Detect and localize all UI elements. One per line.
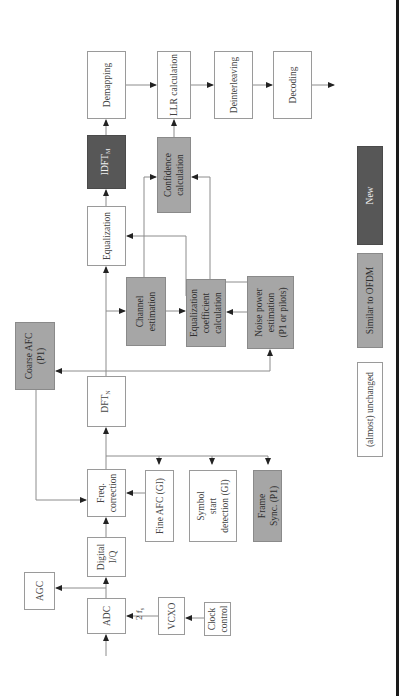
idft-label: IDFTM [99, 149, 114, 175]
dft-sub: N [105, 390, 111, 394]
legend-similar: Similar to OFDM [357, 253, 383, 348]
clock-control-block: Clock control [204, 602, 231, 636]
eq-coeff-block: Equalization coefficient calculation [186, 279, 226, 347]
digital-iq-block: Digital I/Q [87, 537, 126, 577]
vcxo-label: VCXO [166, 603, 178, 630]
fine-afc-label: Fine AFC (GI) [154, 478, 166, 534]
legend-similar-label: Similar to OFDM [364, 267, 376, 335]
deinterleaving-block: Deinterleaving [214, 51, 253, 119]
dft-text: DFT [100, 395, 110, 413]
dft-to-noise-arrow [106, 350, 270, 371]
llr-block: LLR calculation [157, 51, 191, 119]
decoding-block: Decoding [273, 51, 312, 119]
dft-label: DFTN [99, 390, 114, 412]
idft-sub: M [105, 149, 111, 154]
clock-freq-sub: s [139, 608, 145, 610]
vcxo-block: VCXO [158, 597, 185, 635]
adc-block: ADC [87, 598, 126, 634]
frame-sync-block: Frame Sync. (P1) [253, 470, 282, 542]
channel-estimation-block: Channel estimation [126, 277, 166, 346]
symbol-start-block: Symbol start detection (GI) [189, 470, 237, 542]
adc-label: ADC [101, 606, 113, 626]
legend-unchanged: (almost) unchanged [357, 362, 383, 457]
frame-sync-label: Frame Sync. (P1) [256, 486, 280, 526]
deinterleaving-label: Deinterleaving [228, 57, 240, 113]
connector-layer [0, 0, 408, 696]
page-border-rule [396, 0, 399, 696]
demapping-block: Demapping [87, 51, 126, 119]
coarse-afc-block: Coarse AFC (P1) [15, 322, 55, 390]
noise-power-block: Noise power estimation (P1 or pilots) [247, 276, 294, 349]
symbol-start-label: Symbol start detection (GI) [195, 479, 231, 533]
fine-afc-block: Fine AFC (GI) [145, 470, 174, 542]
agc-label: AGC [34, 581, 46, 601]
dft-block: DFTN [87, 376, 126, 427]
noise-to-conf-arrow [192, 177, 247, 282]
freq-correction-block: Freq. correction [87, 469, 126, 517]
idft-block: IDFTM [87, 135, 126, 189]
digital-iq-label: Digital I/Q [95, 544, 119, 570]
eq-coeff-label: Equalization coefficient calculation [188, 289, 224, 337]
demapping-label: Demapping [101, 63, 113, 107]
idft-text: IDFT [100, 154, 110, 175]
freq-correction-label: Freq. correction [95, 474, 119, 513]
noise-power-label: Noise power estimation (P1 or pilots) [253, 287, 289, 337]
decoding-label: Decoding [287, 67, 299, 104]
channel-estimation-label: Channel estimation [134, 292, 158, 332]
confidence-label: Confidence calculation [162, 153, 186, 197]
equalization-label: Equalization [101, 212, 113, 260]
legend-unchanged-label: (almost) unchanged [364, 372, 376, 447]
chan-to-conf-arrow [126, 177, 156, 286]
clock-freq-text: 2 f [134, 610, 144, 620]
clock-control-label: Clock control [206, 606, 230, 633]
agc-block: AGC [24, 572, 55, 610]
equalization-block: Equalization [87, 206, 126, 266]
coarse-afc-label: Coarse AFC (P1) [23, 333, 47, 380]
clock-freq-label: 2 fs [134, 608, 145, 620]
diagram-canvas: ADC AGC Digital I/Q Freq. correction VCX… [0, 0, 408, 696]
legend-new: New [357, 146, 383, 245]
confidence-block: Confidence calculation [157, 137, 191, 213]
llr-label: LLR calculation [168, 54, 180, 116]
legend-new-label: New [364, 187, 376, 205]
